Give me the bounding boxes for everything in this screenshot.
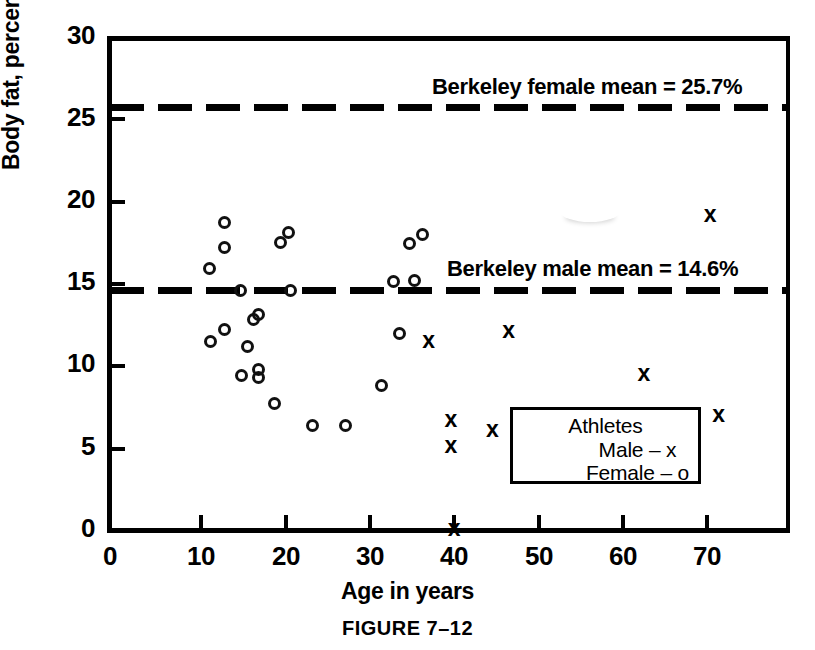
scan-artifact [560,200,620,222]
berkeley-male-mean-label: Berkeley male mean = 14.6% [447,256,738,282]
data-point-female-6 [284,284,297,297]
x-tick-label-30: 30 [340,543,400,569]
y-tick-5 [112,447,125,451]
y-tick-label-0: 0 [0,515,95,541]
figure-7-12: 0 5 10 15 20 25 30 0 10 20 30 40 50 60 7… [0,0,815,650]
y-axis-title: Body fat, percent [0,0,25,170]
berkeley-male-mean-line [110,287,788,294]
data-point-male-1: x [502,318,515,341]
data-point-female-16 [306,419,319,432]
y-tick-label-10: 10 [0,350,95,376]
data-point-female-9 [241,340,254,353]
x-tick-60 [621,515,625,528]
data-point-male-6: x [448,516,461,539]
data-point-male-0: x [422,328,435,351]
y-tick-label-15: 15 [0,268,95,294]
x-tick-label-20: 20 [256,543,316,569]
data-point-female-15 [268,397,281,410]
x-tick-label-50: 50 [509,543,569,569]
berkeley-female-mean-label: Berkeley female mean = 25.7% [432,74,742,100]
data-point-female-14 [252,371,265,384]
data-point-female-2 [203,262,216,275]
data-point-male-7: x [712,402,725,425]
data-point-female-23 [416,228,429,241]
x-tick-label-40: 40 [424,543,484,569]
x-tick-20 [284,515,288,528]
y-tick-30 [112,36,125,40]
data-point-female-5 [274,236,287,249]
x-tick-label-70: 70 [677,543,737,569]
data-point-female-10 [218,323,231,336]
data-point-female-19 [393,327,406,340]
x-tick-70 [705,515,709,528]
data-point-female-17 [339,419,352,432]
berkeley-female-mean-line [110,104,788,111]
y-tick-label-20: 20 [0,186,95,212]
legend-entry-female: Female – o [513,461,730,485]
data-point-female-3 [234,284,247,297]
data-point-male-8: x [704,203,717,226]
x-tick-label-10: 10 [171,543,231,569]
x-tick-label-0: 0 [80,543,140,569]
data-point-female-18 [375,379,388,392]
data-point-female-21 [408,274,421,287]
data-point-male-5: x [444,434,457,457]
data-point-male-2: x [637,361,650,384]
data-point-male-4: x [486,417,499,440]
data-point-female-1 [218,241,231,254]
data-point-female-11 [204,335,217,348]
plot-frame-top [110,36,790,41]
figure-caption: FIGURE 7–12 [0,617,815,640]
legend[interactable]: Athletes Male – x Female – o [510,407,701,484]
data-point-male-3: x [444,407,457,430]
legend-entry-male: Male – x [513,438,730,462]
y-tick-15 [112,282,125,286]
legend-title: Athletes [513,414,698,438]
x-tick-10 [199,515,203,528]
y-tick-0 [112,529,125,533]
y-tick-20 [112,200,125,204]
y-tick-25 [112,117,125,121]
x-tick-50 [537,515,541,528]
y-tick-10 [112,364,125,368]
data-point-female-8 [247,313,260,326]
data-point-female-0 [218,216,231,229]
x-tick-30 [368,515,372,528]
y-tick-label-5: 5 [0,433,95,459]
data-point-female-12 [235,369,248,382]
data-point-female-22 [403,237,416,250]
x-axis-title: Age in years [0,578,815,605]
x-tick-label-60: 60 [593,543,653,569]
